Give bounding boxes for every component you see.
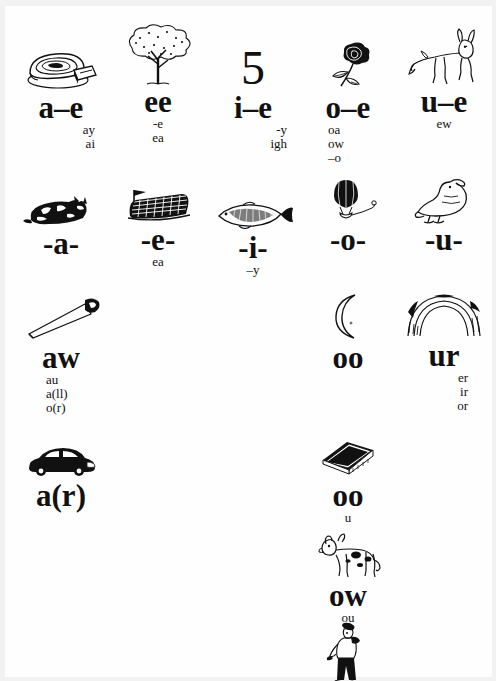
alternate-spelling: ow xyxy=(328,137,396,151)
phoneme-cell-oo-moon: oo xyxy=(300,286,396,373)
phoneme-cell-short-o: -o- xyxy=(300,168,396,255)
grapheme-text: o–e xyxy=(300,92,396,123)
alternate-spelling: ai xyxy=(13,137,95,151)
alternate-spelling: –o xyxy=(328,151,396,165)
mule-icon xyxy=(396,30,492,86)
alternate-spelling: -y xyxy=(205,123,287,137)
alternate-spellings: -e ea xyxy=(110,117,206,145)
alternate-spellings: u xyxy=(300,511,396,525)
phoneme-cell-ur: ur er ir or xyxy=(396,284,492,413)
boy-icon xyxy=(300,622,396,681)
grapheme-text: oo xyxy=(300,480,396,511)
grapheme-text: -u- xyxy=(396,224,492,255)
grapheme-text: oo xyxy=(300,342,396,373)
grapheme-text: a(r) xyxy=(13,480,109,511)
tree-icon xyxy=(110,30,206,86)
page-edge-left xyxy=(0,0,5,681)
alternate-spellings: oa ow –o xyxy=(300,123,396,165)
alternate-spellings: ay ai xyxy=(13,123,109,151)
phoneme-cell-short-u: -u- xyxy=(396,168,492,255)
phoneme-cell-u-e: u–e ew xyxy=(396,30,492,131)
cow-icon xyxy=(300,524,396,580)
fish-icon xyxy=(205,176,301,232)
car-icon xyxy=(13,424,109,480)
grapheme-text: i–e xyxy=(205,92,301,123)
phoneme-cell-short-i: -i- –y xyxy=(205,176,301,277)
alternate-spelling: er xyxy=(396,371,468,385)
alternate-spelling: u xyxy=(300,511,396,525)
alternate-spelling: –y xyxy=(205,263,301,277)
alternate-spelling: ea xyxy=(110,255,206,269)
phoneme-cell-ow: ow ou xyxy=(300,524,396,625)
alternate-spelling: ir xyxy=(396,385,468,399)
phoneme-cell-a-e: a–e ay ai xyxy=(13,36,109,151)
page-edge-top xyxy=(0,0,496,6)
book-icon xyxy=(300,424,396,480)
alternate-spelling: a(ll) xyxy=(46,387,109,401)
alternate-spelling: or xyxy=(396,399,468,413)
alternate-spelling: au xyxy=(46,373,109,387)
saw-icon xyxy=(13,286,109,342)
phoneme-cell-i-e: 5 i–e -y igh xyxy=(205,36,301,151)
hot-air-balloon-icon xyxy=(300,168,396,224)
phoneme-cell-o-e: o–e oa ow –o xyxy=(300,36,396,165)
rainbow-icon xyxy=(396,284,492,340)
alternate-spelling: oa xyxy=(328,123,396,137)
alternate-spelling: ew xyxy=(396,117,492,131)
phoneme-cell-unlabelled xyxy=(300,622,396,681)
grapheme-text: -e- xyxy=(110,224,206,255)
phoneme-cell-aw: aw au a(ll) o(r) xyxy=(13,286,109,415)
bed-icon xyxy=(110,168,206,224)
alternate-spelling: igh xyxy=(205,137,287,151)
phoneme-cell-short-e: -e- ea xyxy=(110,168,206,269)
alternate-spelling: o(r) xyxy=(46,401,109,415)
grapheme-text: -a- xyxy=(13,228,109,259)
alternate-spelling: ea xyxy=(110,131,206,145)
grapheme-text: u–e xyxy=(396,86,492,117)
phoneme-cell-oo-book: oo u xyxy=(300,424,396,525)
cat-icon xyxy=(13,172,109,228)
grapheme-text: a–e xyxy=(13,92,109,123)
grapheme-text: ee xyxy=(110,86,206,117)
phoneme-cell-ee: ee -e ea xyxy=(110,30,206,145)
duck-icon xyxy=(396,168,492,224)
page-edge-bottom xyxy=(0,677,496,681)
crescent-moon-icon xyxy=(300,286,396,342)
phonics-chart-page: a–e ay ai xyxy=(0,0,496,681)
alternate-spellings: –y xyxy=(205,263,301,277)
phoneme-cell-ar: a(r) xyxy=(13,424,109,511)
alternate-spelling: ay xyxy=(13,123,95,137)
alternate-spellings: -y igh xyxy=(205,123,301,151)
alternate-spellings: ea xyxy=(110,255,206,269)
alternate-spellings: au a(ll) o(r) xyxy=(13,373,109,415)
svg-text:5: 5 xyxy=(241,41,265,92)
grapheme-text: ur xyxy=(396,340,492,371)
cake-slice-icon xyxy=(13,36,109,92)
alternate-spelling: -e xyxy=(110,117,206,131)
grapheme-text: -i- xyxy=(205,232,301,263)
grapheme-text: -o- xyxy=(300,224,396,255)
alternate-spellings: ew xyxy=(396,117,492,131)
grapheme-text: aw xyxy=(13,342,109,373)
rose-icon xyxy=(300,36,396,92)
numeral-five-icon: 5 xyxy=(205,36,301,92)
phoneme-cell-short-a: -a- xyxy=(13,172,109,259)
grapheme-text: ow xyxy=(300,580,396,611)
page-edge-right xyxy=(492,0,496,681)
alternate-spellings: er ir or xyxy=(396,371,492,413)
